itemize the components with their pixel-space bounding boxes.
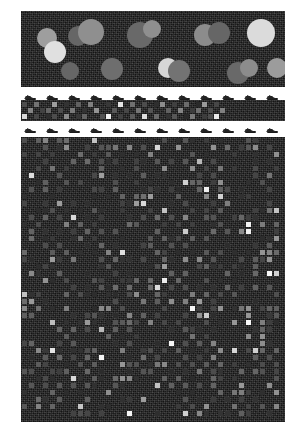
heatmap-cell bbox=[183, 355, 188, 360]
heatmap-cell bbox=[64, 306, 69, 311]
heatmap-cell bbox=[253, 145, 258, 150]
heatmap-cell bbox=[204, 404, 209, 409]
heatmap-cell bbox=[190, 108, 195, 113]
heatmap-cell bbox=[130, 102, 135, 107]
heatmap-cell bbox=[148, 138, 153, 143]
heatmap-cell bbox=[218, 278, 223, 283]
heatmap-cell bbox=[43, 180, 48, 185]
heatmap-cell bbox=[246, 348, 251, 353]
heatmap-cell bbox=[50, 166, 55, 171]
heatmap-cell bbox=[176, 376, 181, 381]
heatmap-cell bbox=[155, 355, 160, 360]
heatmap-cell bbox=[43, 187, 48, 192]
arrow-marker-head bbox=[71, 95, 79, 99]
heatmap-cell bbox=[113, 327, 118, 332]
heatmap-cell bbox=[211, 313, 216, 318]
heatmap-cell bbox=[253, 215, 258, 220]
heatmap-cell bbox=[232, 264, 237, 269]
heatmap-cell bbox=[106, 250, 111, 255]
heatmap-cell bbox=[99, 313, 104, 318]
heatmap-cell bbox=[57, 229, 62, 234]
heatmap-cell bbox=[43, 208, 48, 213]
heatmap-cell bbox=[246, 411, 251, 416]
heatmap-cell bbox=[225, 285, 230, 290]
heatmap-cell bbox=[211, 264, 216, 269]
heatmap-cell bbox=[43, 264, 48, 269]
heatmap-cell bbox=[260, 404, 265, 409]
heatmap-cell bbox=[260, 257, 265, 262]
heatmap-cell bbox=[202, 102, 207, 107]
heatmap-cell bbox=[85, 369, 90, 374]
heatmap-cell bbox=[92, 138, 97, 143]
heatmap-cell bbox=[36, 180, 41, 185]
heatmap-cell bbox=[246, 320, 251, 325]
heatmap-cell bbox=[113, 271, 118, 276]
heatmap-cell bbox=[141, 369, 146, 374]
arrow-marker-row-bottom bbox=[21, 124, 285, 133]
heatmap-cell bbox=[46, 114, 51, 119]
heatmap-cell bbox=[29, 292, 34, 297]
heatmap-cell bbox=[204, 215, 209, 220]
heatmap-cell bbox=[260, 222, 265, 227]
arrow-marker bbox=[113, 92, 124, 100]
heatmap-cell bbox=[204, 194, 209, 199]
circle-marker bbox=[240, 59, 258, 77]
heatmap-cell bbox=[197, 341, 202, 346]
heatmap-cell bbox=[50, 348, 55, 353]
heatmap-cell bbox=[246, 313, 251, 318]
heatmap-cell bbox=[141, 355, 146, 360]
heatmap-cell bbox=[64, 362, 69, 367]
heatmap-cell bbox=[267, 201, 272, 206]
heatmap-cell bbox=[71, 327, 76, 332]
heatmap-cell bbox=[239, 383, 244, 388]
heatmap-cell bbox=[85, 215, 90, 220]
heatmap-cell bbox=[127, 320, 132, 325]
heatmap-cell bbox=[99, 159, 104, 164]
heatmap-cell bbox=[99, 411, 104, 416]
heatmap-cell bbox=[92, 306, 97, 311]
arrow-marker-head bbox=[93, 95, 101, 99]
heatmap-cell bbox=[204, 138, 209, 143]
heatmap-cell bbox=[260, 362, 265, 367]
heatmap-cell bbox=[274, 313, 279, 318]
heatmap-cell bbox=[57, 257, 62, 262]
heatmap-cell bbox=[64, 278, 69, 283]
heatmap-cell bbox=[239, 285, 244, 290]
heatmap-cell bbox=[267, 187, 272, 192]
arrow-marker-head bbox=[181, 128, 189, 132]
heatmap-cell bbox=[183, 327, 188, 332]
heatmap-cell bbox=[134, 194, 139, 199]
heatmap-cell bbox=[78, 236, 83, 241]
heatmap-cell bbox=[155, 173, 160, 178]
heatmap-cell bbox=[197, 383, 202, 388]
heatmap-cell bbox=[113, 313, 118, 318]
heatmap-cell bbox=[120, 250, 125, 255]
heatmap-cell bbox=[127, 222, 132, 227]
heatmap-cell bbox=[218, 411, 223, 416]
heatmap-cell bbox=[113, 243, 118, 248]
heatmap-cell bbox=[64, 208, 69, 213]
heatmap-cell bbox=[190, 138, 195, 143]
heatmap-cell bbox=[267, 313, 272, 318]
heatmap-cell bbox=[176, 404, 181, 409]
heatmap-cell bbox=[64, 166, 69, 171]
heatmap-cell bbox=[239, 390, 244, 395]
heatmap-cell bbox=[78, 152, 83, 157]
heatmap-cell bbox=[169, 327, 174, 332]
circle-marker bbox=[101, 58, 123, 80]
heatmap-cell bbox=[71, 236, 76, 241]
heatmap-cell bbox=[148, 236, 153, 241]
heatmap-cell bbox=[78, 348, 83, 353]
heatmap-cell bbox=[162, 222, 167, 227]
heatmap-cell bbox=[274, 271, 279, 276]
figure-root bbox=[0, 0, 298, 439]
heatmap-cell bbox=[43, 145, 48, 150]
heatmap-cell bbox=[99, 404, 104, 409]
heatmap-cell bbox=[36, 264, 41, 269]
heatmap-cell bbox=[239, 257, 244, 262]
heatmap-cell bbox=[22, 257, 27, 262]
heatmap-cell bbox=[120, 236, 125, 241]
arrow-marker bbox=[69, 92, 80, 100]
heatmap-cell bbox=[78, 222, 83, 227]
heatmap-cell bbox=[112, 108, 117, 113]
